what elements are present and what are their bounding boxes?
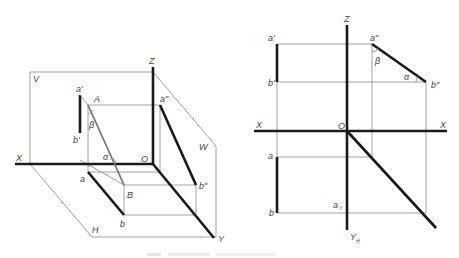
line-ab [88, 172, 124, 215]
right-orthographic-view: Z a' a" β α b' b" X O X a b a Y Y H [254, 14, 447, 244]
label-B: B [127, 190, 133, 200]
label-Z: Z [343, 14, 350, 24]
label-a: a [268, 151, 273, 161]
label-a-dprime: a" [160, 94, 169, 104]
label-Y: Y [218, 234, 225, 244]
label-O: O [338, 121, 345, 131]
label-alpha: α [404, 72, 410, 82]
label-beta: β [374, 56, 380, 66]
label-W: W [199, 142, 209, 152]
projection-diagram: Z V a' A a" β b' W X α O a b" B b H Y [0, 0, 459, 258]
label-V: V [33, 74, 40, 84]
line-a-dprime-b-dprime [160, 105, 196, 185]
y-axis [153, 164, 214, 238]
label-b: b [120, 219, 125, 229]
label-beta: β [88, 120, 94, 130]
line-AB [88, 105, 124, 185]
label-A: A [93, 94, 100, 104]
label-b: b [269, 208, 274, 218]
label-X: X [15, 153, 23, 163]
miter-line [347, 131, 436, 228]
label-a-prime: a' [76, 84, 83, 94]
caption-remnant [147, 253, 276, 256]
label-ax: a [333, 200, 338, 210]
label-b-prime: b' [73, 135, 80, 145]
label-b-prime: b' [268, 78, 275, 88]
label-a: a [80, 174, 85, 184]
label-b-dprime: b" [199, 181, 208, 191]
label-O: O [141, 154, 148, 164]
label-a-dprime: a" [370, 33, 379, 43]
v-plane-outline [30, 72, 153, 164]
label-Z: Z [148, 56, 155, 66]
label-alpha: α [103, 152, 109, 162]
label-X-right: X [439, 120, 447, 130]
left-pictorial-view: Z V a' A a" β b' W X α O a b" B b H Y [15, 56, 225, 244]
label-a-prime: a' [268, 33, 275, 43]
label-ax-subscript: Y [339, 205, 343, 211]
label-YH-subscript: H [356, 238, 360, 244]
label-H: H [92, 225, 99, 235]
label-X-left: X [255, 120, 263, 130]
label-b-dprime: b" [431, 80, 440, 90]
